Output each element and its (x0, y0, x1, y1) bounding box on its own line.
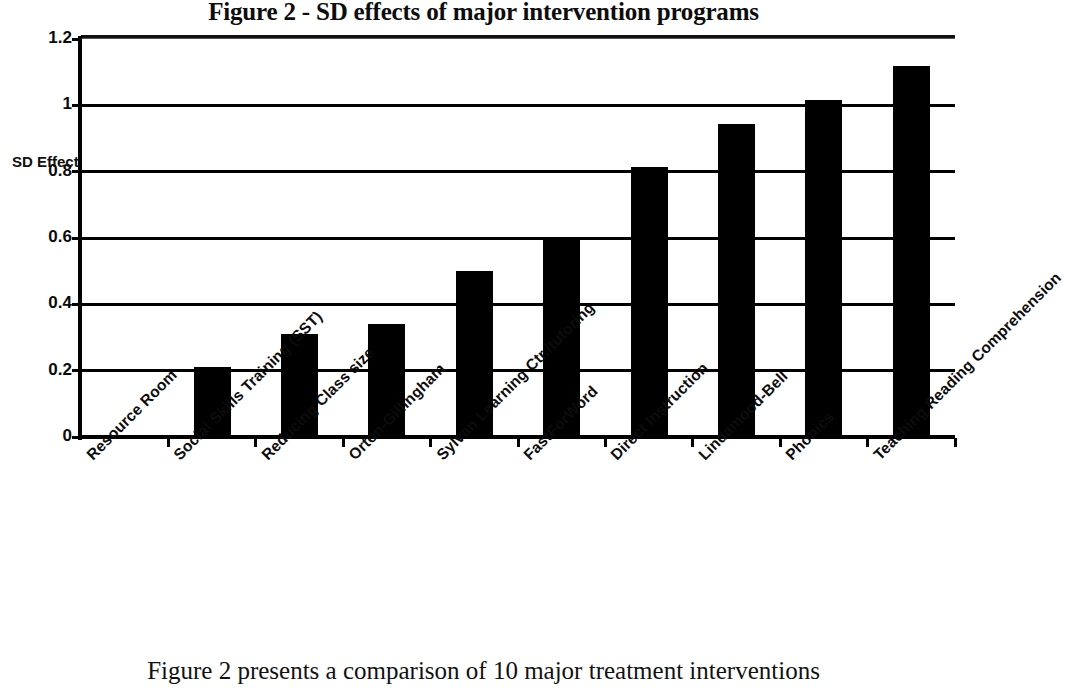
y-axis-tick-label: 1 (63, 94, 72, 114)
bar (805, 100, 842, 437)
y-axis-tick (72, 303, 81, 306)
bar (718, 124, 755, 437)
y-axis-tick-label: 0.2 (48, 360, 72, 380)
sd-effect-annotation: SD Effect (12, 153, 79, 170)
y-axis-tick-label: 0.6 (48, 227, 72, 247)
y-axis-tick (72, 104, 81, 107)
y-axis-tick-label: 1.2 (48, 28, 72, 48)
y-axis-tick-label: 0.4 (48, 293, 72, 313)
figure-caption: Figure 2 presents a comparison of 10 maj… (0, 657, 967, 685)
y-axis-tick (72, 170, 81, 173)
y-axis-tick (72, 237, 81, 240)
y-axis-tick (72, 38, 81, 41)
bar (893, 66, 930, 437)
y-axis-labels: 00.20.40.60.811.2 (0, 0, 72, 460)
x-axis-category-labels: Resource RoomSocial Skills Training (SST… (0, 437, 967, 647)
y-axis-tick (72, 369, 81, 372)
